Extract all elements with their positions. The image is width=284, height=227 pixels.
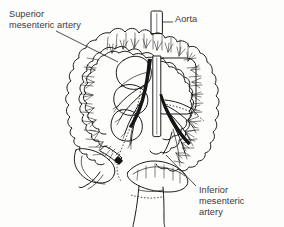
aorta-trunk (153, 56, 161, 137)
label-inferior-mesenteric-artery: Inferior mesenteric artery (199, 185, 244, 219)
label-superior-mesenteric-artery: Superior mesenteric artery (9, 9, 81, 31)
anatomical-figure: Superior mesenteric artery Aorta Inferio… (0, 0, 284, 227)
small-bowel-mesentery (111, 56, 151, 141)
superior-mesenteric-artery (113, 59, 152, 149)
aorta-stump (151, 11, 162, 34)
leader-line-superior-mesenteric-artery (56, 31, 118, 62)
label-aorta: Aorta (175, 14, 197, 25)
